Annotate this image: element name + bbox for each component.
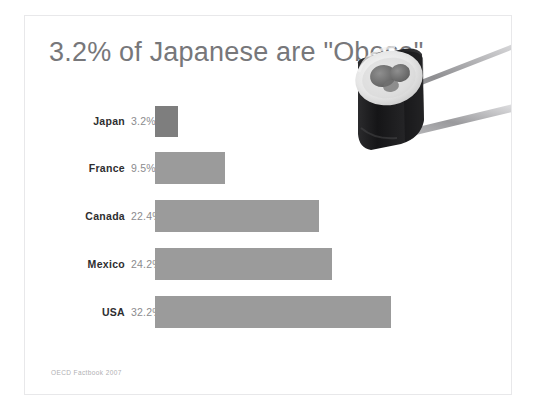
row-label-group-usa: USA — [25, 290, 125, 334]
country-label: France — [89, 162, 125, 174]
bar-japan — [155, 106, 178, 137]
bar-usa — [155, 296, 391, 328]
bar-canada — [155, 200, 319, 232]
row-label-group-japan: Japan — [25, 99, 125, 143]
chart-row-canada: Canada 22.4% — [25, 194, 512, 238]
bar-mexico — [155, 248, 332, 280]
row-label-group-canada: Canada — [25, 194, 125, 238]
bar-track-canada — [155, 194, 512, 238]
country-label: USA — [102, 306, 125, 318]
value-label: 3.2% — [131, 99, 156, 143]
value-label: 9.5% — [131, 146, 156, 190]
chart-row-japan: Japan 3.2% — [25, 99, 512, 143]
chart-row-france: France 9.5% — [25, 146, 512, 190]
row-label-group-france: France — [25, 146, 125, 190]
bar-track-mexico — [155, 242, 512, 286]
slide-frame: 3.2% of Japanese are "Obese" — [24, 15, 512, 395]
bar-track-usa — [155, 290, 512, 334]
chart-row-usa: USA 32.2% — [25, 290, 512, 334]
country-label: Mexico — [88, 258, 125, 270]
source-note: OECD Factbook 2007 — [51, 369, 122, 376]
row-label-group-mexico: Mexico — [25, 242, 125, 286]
bar-track-japan — [155, 99, 512, 143]
country-label: Canada — [85, 210, 125, 222]
country-label: Japan — [93, 115, 125, 127]
bar-france — [155, 152, 225, 184]
bar-track-france — [155, 146, 512, 190]
chart-row-mexico: Mexico 24.2% — [25, 242, 512, 286]
bar-chart: Japan 3.2% France 9.5% Canada 22.4% — [25, 99, 512, 349]
